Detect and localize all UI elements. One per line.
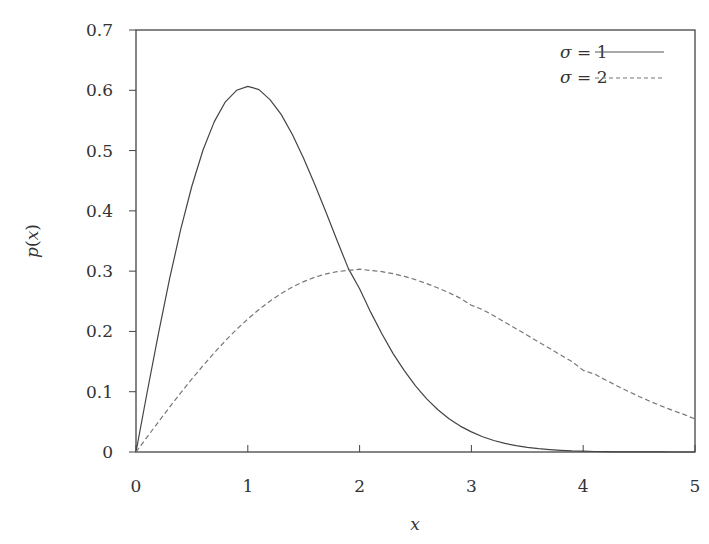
- x-tick-label: 4: [578, 476, 589, 496]
- series-line-2: [136, 269, 695, 452]
- legend: σ = 1 σ = 2: [560, 42, 664, 87]
- y-tick-label: 0.2: [86, 321, 113, 341]
- y-tick-label: 0.5: [86, 141, 113, 161]
- y-tick-label: 0.6: [86, 80, 113, 100]
- y-axis-label: p(x): [22, 224, 42, 258]
- y-tick-label: 0: [102, 442, 113, 462]
- legend-label-sigma-2: σ = 2: [560, 67, 608, 87]
- x-axis-label: x: [410, 514, 420, 534]
- x-tick-label: 5: [690, 476, 701, 496]
- x-tick-label: 2: [354, 476, 365, 496]
- x-tick-label: 1: [242, 476, 253, 496]
- series-lines: [136, 86, 695, 452]
- y-tick-label: 0.3: [86, 261, 113, 281]
- x-tick-label: 3: [466, 476, 477, 496]
- plot-area: [136, 30, 695, 452]
- plot-border: [136, 30, 695, 452]
- y-axis: 00.10.20.30.40.50.60.7: [86, 20, 136, 462]
- y-tick-label: 0.4: [86, 201, 113, 221]
- chart: 00.10.20.30.40.50.60.7 012345 σ = 1 σ = …: [0, 0, 709, 544]
- series-line-1: [136, 86, 695, 452]
- x-tick-label: 0: [131, 476, 142, 496]
- y-tick-label: 0.7: [86, 20, 113, 40]
- svg-text:p(x): p(x): [22, 224, 42, 258]
- y-tick-label: 0.1: [86, 382, 113, 402]
